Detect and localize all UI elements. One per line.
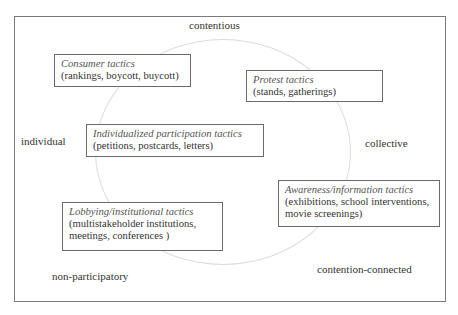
tactic-examples: (exhibitions, school interventions, movi…	[285, 196, 435, 220]
tactic-examples: (petitions, postcards, letters)	[93, 140, 259, 152]
axis-label-non-participatory: non-participatory	[52, 270, 128, 283]
tactic-examples: (rankings, boycott, buycott)	[61, 70, 186, 82]
axis-label-collective: collective	[365, 137, 408, 150]
tactic-title: Awareness/information tactics	[285, 184, 435, 196]
tactic-title: Consumer tactics	[61, 58, 186, 70]
tactic-box-individualized-participation: Individualized participation tactics (pe…	[86, 124, 264, 157]
tactic-box-awareness-information: Awareness/information tactics (exhibitio…	[278, 180, 440, 227]
tactic-title: Lobbying/institutional tactics	[69, 206, 218, 218]
axis-label-contention-connected: contention-connected	[317, 263, 412, 276]
tactic-box-consumer: Consumer tactics (rankings, boycott, buy…	[54, 54, 191, 87]
tactic-title: Individualized participation tactics	[93, 128, 259, 140]
tactic-examples: (multistakeholder institutions, meetings…	[69, 218, 218, 242]
tactic-title: Protest tactics	[253, 74, 378, 86]
axis-label-contentious: contentious	[189, 19, 240, 32]
tactic-box-lobbying-institutional: Lobbying/institutional tactics (multista…	[62, 202, 223, 251]
axis-label-individual: individual	[21, 135, 66, 148]
tactic-examples: (stands, gatherings)	[253, 86, 378, 98]
tactic-box-protest: Protest tactics (stands, gatherings)	[246, 70, 383, 102]
